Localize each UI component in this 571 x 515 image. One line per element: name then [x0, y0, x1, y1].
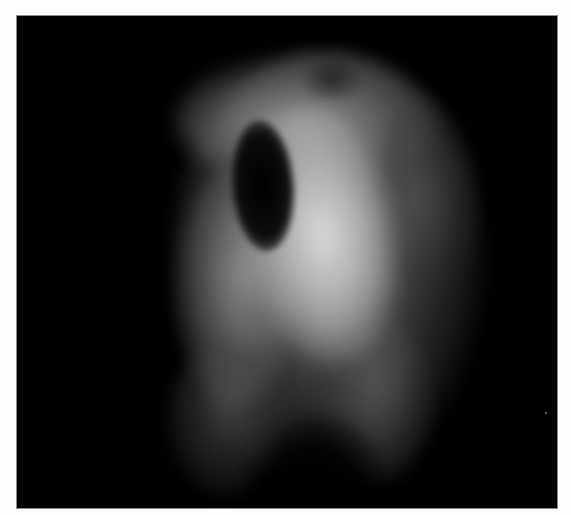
micrograph-panel: [17, 16, 557, 508]
noise-speck: [545, 412, 547, 414]
cell-dim-region: [302, 56, 362, 101]
